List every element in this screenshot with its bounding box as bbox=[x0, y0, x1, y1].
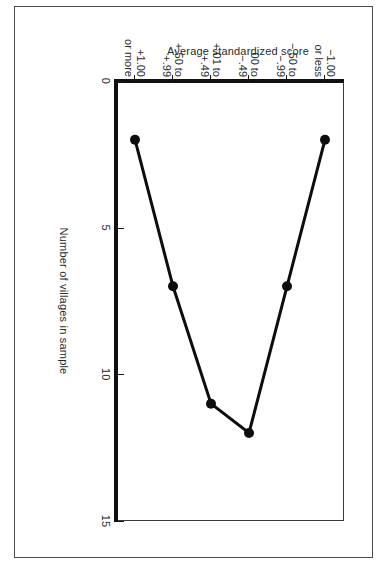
value-tick-label: 0 bbox=[100, 77, 112, 83]
figure-page: 051015 −1.00 or less−.50 to −.99.00 to −… bbox=[0, 0, 386, 565]
series-line bbox=[135, 139, 325, 432]
data-point bbox=[130, 134, 140, 144]
value-tick-label: 10 bbox=[100, 368, 112, 381]
data-point bbox=[320, 134, 330, 144]
category-axis-title: Average standardized score bbox=[118, 45, 358, 57]
value-axis-title: Number of villages in sample bbox=[58, 81, 70, 521]
data-point bbox=[206, 398, 216, 408]
series-markers bbox=[130, 134, 330, 437]
series-plot bbox=[116, 81, 344, 521]
value-tick-label: 5 bbox=[100, 224, 112, 230]
data-point bbox=[282, 281, 292, 291]
value-tick-label: 15 bbox=[100, 514, 112, 527]
rotated-figure-stage: 051015 −1.00 or less−.50 to −.99.00 to −… bbox=[28, 23, 358, 543]
data-point bbox=[168, 281, 178, 291]
